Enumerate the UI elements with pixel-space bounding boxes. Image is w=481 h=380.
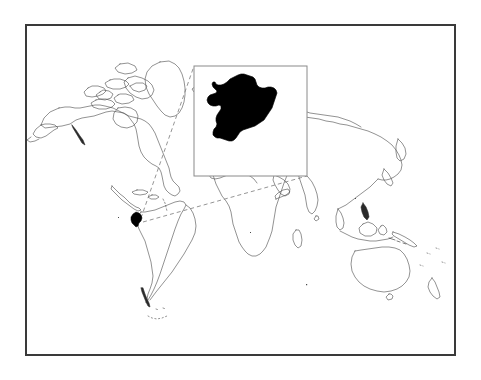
coastline-south-america-east [150, 205, 196, 300]
coastline-arabia [273, 175, 290, 196]
coastline-central-america [111, 186, 141, 211]
coastline-sulawesi [378, 225, 387, 235]
coastline-baffin [124, 76, 154, 99]
coastline-new-guinea [392, 232, 417, 247]
coastline-indonesia-small [389, 238, 406, 244]
highlighted-country [131, 212, 142, 227]
coastline-arctic-islands-4 [114, 94, 134, 104]
coastline-arctic-islands-5 [130, 83, 147, 92]
coastline-ellesmere [115, 63, 137, 74]
coastline-victoria [96, 90, 113, 100]
coastline-south-america [137, 201, 186, 303]
coastline-korea-china-east [338, 179, 378, 209]
coastline-north-america [41, 105, 180, 196]
leader-lower [143, 176, 307, 222]
coastline-kamchatka [396, 139, 406, 161]
coastline-tasmania [386, 294, 393, 300]
coastline-borneo [359, 222, 377, 236]
coastline-sri-lanka [314, 216, 319, 221]
coastline-alaska [33, 124, 58, 138]
locator-map-figure [0, 0, 481, 380]
coastline-pacific-islands [420, 248, 445, 266]
coastline-madagascar [293, 230, 302, 248]
coastline-new-zealand [428, 278, 440, 299]
coastline-philippines [361, 203, 369, 220]
leader-upper [141, 66, 194, 218]
coastline-lesser-antilles [163, 199, 167, 211]
coastline-cuba [132, 190, 148, 195]
coastline-aleutians [27, 137, 39, 142]
coastline-falklands [156, 308, 166, 310]
coastline-horn-of-africa [275, 189, 290, 199]
map-canvas [0, 0, 481, 380]
coastline-pacific-specks [118, 198, 356, 285]
coastline-patagonia-fill [141, 288, 150, 307]
coastline-india [298, 170, 318, 214]
inset-detail-panel [194, 66, 307, 176]
coastline-australia [351, 247, 410, 292]
coastline-arctic-islands-3 [91, 99, 115, 109]
coastline-south-atlantic-islands [148, 316, 167, 319]
coastline-japan [382, 169, 393, 186]
coastline-bc-fill [72, 125, 85, 145]
coastline-africa [212, 169, 288, 256]
coastline-southeast-asia [336, 209, 344, 230]
coastline-hispaniola [148, 195, 159, 199]
coastline-arctic-islands-1 [84, 86, 106, 97]
